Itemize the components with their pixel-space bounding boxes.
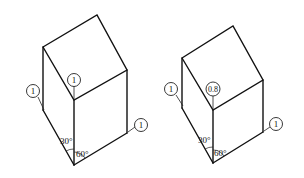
cube-left: 30° 60° 1 1 1: [27, 15, 148, 165]
cube-left-angle-30: 30°: [60, 136, 73, 146]
cube-right-angle-arc-30: [205, 147, 213, 149]
cube-left-angle-60: 60°: [76, 149, 89, 159]
cube-right-top-face: [182, 26, 263, 110]
cube-right-angle-60: 60°: [214, 148, 227, 158]
diagram-canvas: 30° 60° 1 1 1 30° 60° 1 0.8 1: [0, 0, 304, 178]
cube-left-coef-vertical: 1: [72, 75, 77, 85]
cube-left-coef-left: 1: [31, 86, 36, 96]
cube-right-angle-30: 30°: [198, 135, 211, 145]
cube-right: 30° 60° 1 0.8 1: [165, 26, 283, 163]
cube-left-coef-right: 1: [139, 120, 144, 130]
cube-left-leader-right: [128, 127, 135, 132]
cube-right-leader-right: [264, 127, 270, 131]
cube-right-coef-vertical: 0.8: [208, 85, 218, 94]
cube-left-top-face: [43, 15, 127, 100]
cube-right-coef-left: 1: [169, 84, 174, 94]
cube-left-angle-arc-30: [66, 149, 74, 151]
cube-right-coef-right: 1: [274, 119, 279, 129]
